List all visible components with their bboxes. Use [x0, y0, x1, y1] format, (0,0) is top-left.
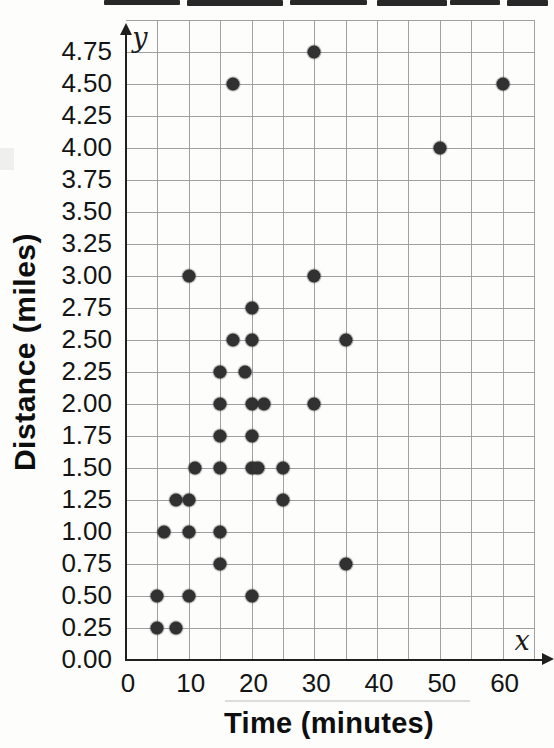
- y-tick-label: 2.50: [61, 324, 112, 355]
- scatter-point: [339, 558, 352, 571]
- artifact-segment: [187, 0, 283, 6]
- artifact-line: [225, 700, 470, 702]
- gridline-horizontal: [126, 212, 534, 213]
- gridline-horizontal: [126, 436, 534, 437]
- x-axis-title: Time (minutes): [224, 707, 434, 740]
- y-tick-label: 2.75: [61, 292, 112, 323]
- y-tick-label: 1.50: [61, 452, 112, 483]
- gridline-horizontal: [126, 628, 534, 629]
- scatter-point: [226, 78, 239, 91]
- y-tick-label: 4.25: [61, 100, 112, 131]
- y-tick-label: 3.00: [61, 260, 112, 291]
- y-axis-letter: y: [132, 22, 147, 53]
- scatter-point: [308, 270, 321, 283]
- scatter-point: [170, 494, 183, 507]
- x-tick-label: 30: [302, 668, 331, 699]
- gridline-horizontal: [126, 180, 534, 181]
- artifact-segment: [104, 0, 180, 5]
- gridline-horizontal: [126, 564, 534, 565]
- scatter-point: [308, 398, 321, 411]
- scatter-point: [214, 398, 227, 411]
- y-tick-label: 3.25: [61, 228, 112, 259]
- y-tick-label: 1.00: [61, 516, 112, 547]
- scatter-point: [245, 398, 258, 411]
- scatter-point: [245, 590, 258, 603]
- scatter-point: [245, 334, 258, 347]
- x-tick-label: 20: [239, 668, 268, 699]
- artifact-smudge: [0, 148, 14, 170]
- y-axis-title: Distance (miles): [8, 233, 42, 471]
- x-axis-line: [125, 659, 544, 661]
- artifact-segment: [450, 0, 500, 5]
- scatter-point: [182, 270, 195, 283]
- scatter-point: [157, 526, 170, 539]
- x-tick-label: 10: [176, 668, 205, 699]
- y-axis-arrow-icon: [120, 23, 132, 35]
- scatter-point: [339, 334, 352, 347]
- y-tick-label: 2.25: [61, 356, 112, 387]
- x-tick-label: 60: [490, 668, 519, 699]
- scatter-point: [276, 494, 289, 507]
- gridline-horizontal: [126, 20, 534, 21]
- gridline-horizontal: [126, 468, 534, 469]
- scatter-point: [496, 78, 509, 91]
- y-tick-label: 1.25: [61, 484, 112, 515]
- artifact-segment: [377, 0, 447, 6]
- scatter-point: [182, 526, 195, 539]
- scatter-point: [433, 142, 446, 155]
- y-tick-label: 0.75: [61, 548, 112, 579]
- y-tick-label: 1.75: [61, 420, 112, 451]
- gridline-horizontal: [126, 148, 534, 149]
- scatter-point: [258, 398, 271, 411]
- scatter-point: [214, 366, 227, 379]
- artifact-segment: [290, 0, 367, 5]
- scatter-point: [182, 494, 195, 507]
- scatter-point: [251, 462, 264, 475]
- scatter-point: [170, 622, 183, 635]
- plot-area: y x: [126, 20, 534, 660]
- x-tick-label: 40: [365, 668, 394, 699]
- y-tick-label: 3.75: [61, 164, 112, 195]
- scatter-point: [239, 366, 252, 379]
- y-axis-line: [125, 34, 127, 661]
- y-tick-label: 0.00: [61, 644, 112, 675]
- scatter-point: [214, 462, 227, 475]
- x-axis-arrow-icon: [542, 653, 554, 665]
- y-tick-label: 3.50: [61, 196, 112, 227]
- scatter-point: [245, 302, 258, 315]
- scatter-point: [226, 334, 239, 347]
- gridline-horizontal: [126, 372, 534, 373]
- gridline-horizontal: [126, 52, 534, 53]
- y-tick-label: 4.50: [61, 68, 112, 99]
- scatter-point: [189, 462, 202, 475]
- gridline-horizontal: [126, 308, 534, 309]
- scatter-point: [308, 46, 321, 59]
- y-tick-label: 2.00: [61, 388, 112, 419]
- y-tick-label: 4.00: [61, 132, 112, 163]
- gridline-horizontal: [126, 340, 534, 341]
- scatter-point: [151, 590, 164, 603]
- x-axis-letter: x: [514, 625, 529, 656]
- gridline-vertical: [534, 20, 535, 660]
- scatter-point: [214, 430, 227, 443]
- artifact-segment: [507, 0, 548, 6]
- y-tick-label: 0.50: [61, 580, 112, 611]
- gridline-horizontal: [126, 116, 534, 117]
- gridline-horizontal: [126, 84, 534, 85]
- gridline-horizontal: [126, 404, 534, 405]
- y-tick-label: 4.75: [61, 36, 112, 67]
- x-tick-label: 0: [121, 668, 135, 699]
- scatter-point: [182, 590, 195, 603]
- scatter-point: [245, 430, 258, 443]
- scatter-point: [214, 558, 227, 571]
- y-tick-label: 0.25: [61, 612, 112, 643]
- scatter-point: [151, 622, 164, 635]
- scatter-point: [214, 526, 227, 539]
- gridline-horizontal: [126, 244, 534, 245]
- x-tick-label: 50: [427, 668, 456, 699]
- scatter-point: [276, 462, 289, 475]
